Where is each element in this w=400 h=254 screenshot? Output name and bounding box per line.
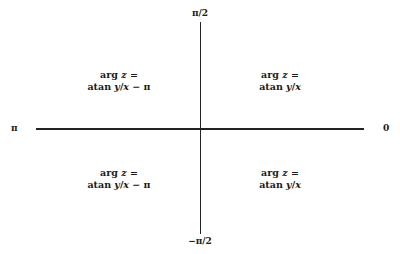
axis-label-bottom: −π/2 <box>188 237 212 246</box>
axis-label-top: π/2 <box>192 9 208 18</box>
formula-line-1: arg z = <box>259 69 301 81</box>
formula-line-1: arg z = <box>259 167 301 179</box>
formula-line-2: atan y/x − π <box>87 81 150 93</box>
formula-line-2: atan y/x <box>259 81 301 93</box>
formula-line-2: atan y/x − π <box>87 179 150 191</box>
quadrant-upper-right-label: arg z = atan y/x <box>259 69 301 93</box>
axis-label-left: π <box>11 124 18 133</box>
formula-line-1: arg z = <box>87 167 150 179</box>
quadrant-upper-left-label: arg z = atan y/x − π <box>87 69 150 93</box>
quadrant-lower-right-label: arg z = atan y/x <box>259 167 301 191</box>
vertical-axis <box>200 22 202 234</box>
quadrant-lower-left-label: arg z = atan y/x − π <box>87 167 150 191</box>
axis-label-right: 0 <box>383 124 389 133</box>
formula-line-2: atan y/x <box>259 179 301 191</box>
formula-line-1: arg z = <box>87 69 150 81</box>
